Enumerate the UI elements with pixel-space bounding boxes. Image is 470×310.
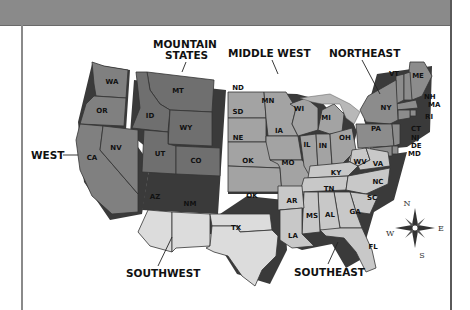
label-oh: OH bbox=[339, 134, 351, 142]
label-vt: VT bbox=[389, 70, 399, 78]
label-mi: MI bbox=[321, 114, 331, 122]
leader-mountain bbox=[182, 62, 186, 72]
label-id: ID bbox=[146, 112, 155, 120]
label-ma: MA bbox=[428, 101, 441, 109]
label-la: LA bbox=[288, 232, 298, 240]
compass-e-label: E bbox=[438, 224, 444, 233]
us-regions-map: WA OR CA NV MT ID WY UT CO ND ND SD NE O… bbox=[0, 0, 470, 310]
label-nj: NJ bbox=[411, 134, 419, 142]
label-ga: GA bbox=[349, 208, 361, 216]
label-wi: WI bbox=[294, 105, 304, 113]
compass-n-label: N bbox=[404, 199, 411, 208]
label-pa: PA bbox=[371, 125, 381, 133]
label-mn: MN bbox=[262, 97, 275, 105]
label-me: ME bbox=[412, 72, 424, 80]
label-mt: MT bbox=[172, 87, 184, 95]
state-ks-ok-label[interactable] bbox=[228, 166, 282, 192]
leader-middle-west bbox=[272, 60, 278, 74]
label-ky: KY bbox=[331, 169, 342, 177]
label-ri: RI bbox=[425, 113, 433, 121]
label-nv: NV bbox=[110, 144, 122, 152]
label-ca: CA bbox=[87, 154, 98, 162]
label-sc: SC bbox=[367, 194, 377, 202]
state-ct[interactable] bbox=[398, 110, 410, 120]
label-co: CO bbox=[190, 157, 201, 165]
label-west: WEST bbox=[31, 149, 65, 161]
label-ne: NE bbox=[233, 134, 244, 142]
label-mo: MO bbox=[282, 159, 295, 167]
label-northeast: NORTHEAST bbox=[329, 47, 401, 59]
label-wy: WY bbox=[180, 124, 194, 132]
label-tn: TN bbox=[324, 185, 335, 193]
label-middle-west: MIDDLE WEST bbox=[228, 47, 312, 59]
label-al: AL bbox=[325, 211, 335, 219]
label-ar: AR bbox=[287, 197, 298, 205]
label-ct: CT bbox=[411, 125, 421, 133]
label-tx: TX bbox=[231, 224, 242, 232]
label-ny: NY bbox=[381, 104, 393, 112]
label-ut: UT bbox=[155, 150, 166, 158]
compass-s-label: S bbox=[419, 251, 424, 260]
label-ok-midwest: OK bbox=[242, 157, 254, 165]
label-nc: NC bbox=[373, 178, 384, 186]
state-az[interactable] bbox=[138, 210, 172, 252]
label-mountain-line2: STATES bbox=[165, 49, 208, 61]
label-de: DE bbox=[411, 142, 422, 150]
label-ok: OK bbox=[246, 192, 258, 200]
label-fl: FL bbox=[368, 243, 378, 251]
label-ia: IA bbox=[275, 127, 284, 135]
state-de[interactable] bbox=[392, 146, 398, 154]
state-nm[interactable] bbox=[172, 212, 210, 252]
label-wv: WV bbox=[353, 158, 367, 166]
label-va: VA bbox=[373, 160, 384, 168]
compass-rose: N E S W bbox=[386, 199, 444, 260]
state-ri[interactable] bbox=[410, 110, 416, 116]
label-wa: WA bbox=[106, 78, 119, 86]
state-ia[interactable] bbox=[266, 136, 302, 160]
label-nm: NM bbox=[184, 200, 197, 208]
label-ms: MS bbox=[306, 212, 318, 220]
label-or: OR bbox=[96, 107, 108, 115]
label-southwest: SOUTHWEST bbox=[126, 267, 201, 279]
label-md: MD bbox=[408, 150, 421, 158]
label-southeast: SOUTHEAST bbox=[294, 266, 366, 278]
label-nh: NH bbox=[424, 93, 436, 101]
label-az: AZ bbox=[150, 193, 161, 201]
label-sd: SD bbox=[233, 108, 244, 116]
label-il: IL bbox=[303, 141, 311, 149]
label-nd-visible: ND bbox=[232, 84, 244, 92]
label-in: IN bbox=[319, 142, 328, 150]
compass-w-label: W bbox=[386, 229, 395, 238]
